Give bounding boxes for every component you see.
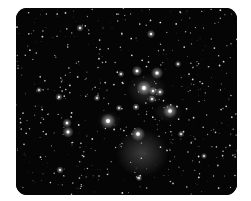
star-cluster-photo <box>16 8 237 195</box>
star-field <box>16 8 237 195</box>
